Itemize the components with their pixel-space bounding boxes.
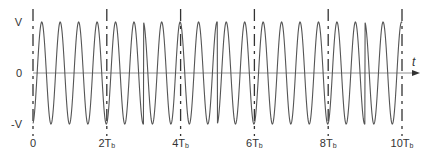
waveform-plot — [0, 0, 429, 154]
x-tick-label-4: 8Tb — [320, 138, 337, 149]
x-tick-main: 0 — [30, 137, 36, 149]
x-axis-label-t: t — [412, 56, 415, 68]
x-tick-subscript: b — [259, 142, 263, 149]
x-tick-main: 8T — [320, 137, 333, 149]
time-axis-arrow-icon — [412, 70, 420, 76]
x-tick-label-1: 2Tb — [98, 138, 115, 149]
psk-waveform-diagram: V 0 -V t 02Tb4Tb6Tb8Tb10Tb — [0, 0, 429, 154]
x-tick-main: 10T — [391, 137, 410, 149]
x-tick-label-3: 6Tb — [246, 138, 263, 149]
x-tick-subscript: b — [111, 142, 115, 149]
x-tick-main: 6T — [246, 137, 259, 149]
y-label-positive-v: V — [2, 17, 22, 28]
x-tick-main: 4T — [172, 137, 185, 149]
x-tick-label-2: 4Tb — [172, 138, 189, 149]
x-tick-label-0: 0 — [30, 138, 36, 149]
x-tick-label-5: 10Tb — [391, 138, 414, 149]
x-tick-subscript: b — [410, 142, 414, 149]
x-tick-subscript: b — [185, 142, 189, 149]
y-label-zero: 0 — [2, 68, 22, 79]
x-tick-main: 2T — [98, 137, 111, 149]
x-tick-subscript: b — [333, 142, 337, 149]
y-label-negative-v: -V — [2, 119, 22, 130]
